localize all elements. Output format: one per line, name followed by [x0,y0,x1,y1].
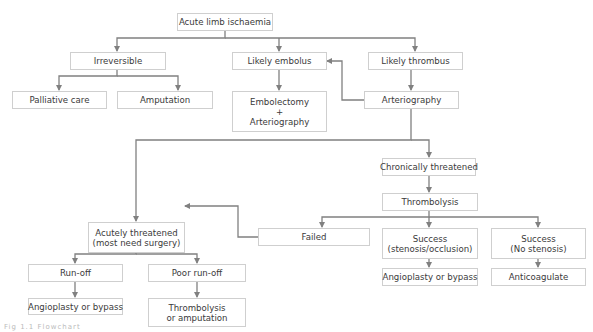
node-palliative-care: Palliative care [12,91,107,109]
node-label: (No stenosis) [510,244,566,254]
node-label: Likely thrombus [381,56,450,66]
node-failed: Failed [258,228,370,246]
edge-irreversible-amputation [117,76,178,90]
node-label: Anticoagulate [509,272,569,282]
node-amputation: Amputation [117,91,213,109]
node-label: Amputation [140,95,190,105]
node-label: Thrombolysis [401,197,458,207]
node-label: (stenosis/occlusion) [388,244,473,254]
node-angioplasty-bypass-right: Angioplasty or bypass [382,268,478,286]
node-thrombolysis-or-amputation: Thrombolysis or amputation [148,298,246,327]
node-anticoagulate: Anticoagulate [491,268,586,286]
node-label: Likely embolus [247,56,311,66]
node-acute-limb-ischaemia: Acute limb ischaemia [177,13,273,31]
node-label: Irreversible [94,56,142,66]
edge-root-thrombus [225,38,415,51]
node-arteriography: Arteriography [364,91,459,109]
node-acutely-threatened: Acutely threatened (most need surgery) [88,222,185,253]
node-label: Acutely threatened [95,228,177,238]
node-label: Failed [302,232,327,242]
figure-caption: Fig 1.1 Flowchart [4,323,81,331]
node-label: (most need surgery) [93,238,181,248]
edge-root-irreversible [117,30,225,51]
node-success-no-stenosis: Success (No stenosis) [491,228,586,259]
node-label: Palliative care [30,95,90,105]
node-label: Arteriography [382,95,442,105]
node-label: Thrombolysis [168,303,225,313]
edge-acutely-runoff [75,252,136,263]
node-label: Run-off [60,268,91,278]
node-likely-embolus: Likely embolus [232,52,327,70]
edge-arteriography-chronically [411,140,429,157]
node-label: Angioplasty or bypass [383,272,478,282]
node-likely-thrombus: Likely thrombus [368,52,463,70]
edge-acutely-poorrunoff [136,254,197,263]
node-run-off: Run-off [28,264,123,282]
node-label: Arteriography [250,117,310,127]
node-thrombolysis: Thrombolysis [382,193,478,211]
node-chronically-threatened: Chronically threatened [382,158,476,176]
node-label: Success [521,234,556,244]
node-embolectomy-arteriography: Embolectomy + Arteriography [232,91,327,132]
node-label: + [276,107,283,117]
node-label: Success [413,234,448,244]
flowchart-canvas: Acute limb ischaemia Irreversible Likely… [0,0,593,332]
node-label: Acute limb ischaemia [179,17,271,27]
edge-failed-acutely [185,206,258,237]
node-label: Angioplasty or bypass [28,302,123,312]
node-label: Chronically threatened [380,162,478,172]
node-poor-run-off: Poor run-off [148,264,246,282]
edge-irreversible-palliative [59,69,117,90]
edge-arteriography-embolus [327,61,364,100]
node-label: Poor run-off [172,268,223,278]
node-irreversible: Irreversible [70,52,166,70]
edge-thrombolysis-failed [322,210,429,227]
edge-thrombolysis-success-nostenosis [429,217,538,227]
node-label: or amputation [166,313,227,323]
node-label: Embolectomy [250,97,309,107]
node-success-stenosis: Success (stenosis/occlusion) [382,228,478,259]
node-angioplasty-bypass-left: Angioplasty or bypass [28,298,123,315]
